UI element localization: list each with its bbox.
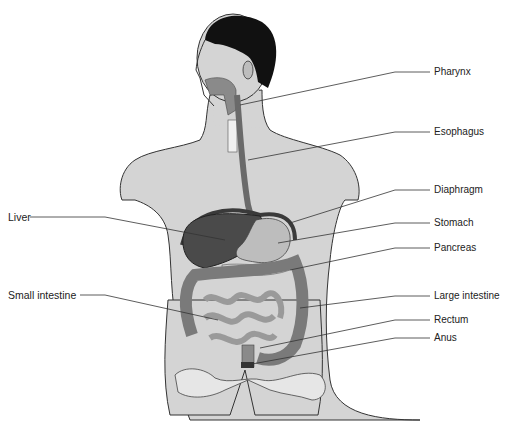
ear — [243, 61, 253, 79]
label-stomach: Stomach — [434, 217, 473, 229]
label-large-intestine: Large intestine — [434, 290, 500, 302]
anatomy-illustration — [0, 0, 507, 435]
anus-organ — [241, 362, 254, 368]
label-small-intestine: Small intestine — [8, 289, 76, 301]
label-rectum: Rectum — [434, 314, 468, 326]
label-anus: Anus — [434, 332, 457, 344]
label-esophagus: Esophagus — [434, 126, 484, 138]
trachea — [228, 120, 237, 152]
label-pharynx: Pharynx — [434, 66, 471, 78]
digestive-system-diagram: Pharynx Esophagus Diaphragm Stomach Panc… — [0, 0, 507, 435]
label-diaphragm: Diaphragm — [434, 184, 483, 196]
label-pancreas: Pancreas — [434, 242, 476, 254]
label-liver: Liver — [8, 211, 31, 223]
